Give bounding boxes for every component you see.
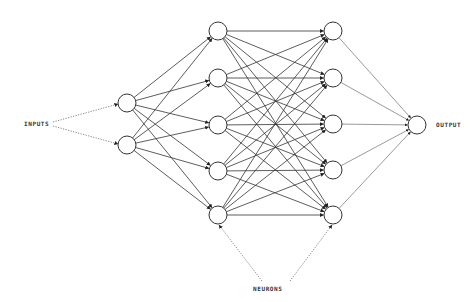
annotation-arrow bbox=[53, 104, 118, 122]
output-label: OUTPUT bbox=[436, 121, 461, 128]
connection-edge bbox=[136, 148, 209, 169]
connection-edge bbox=[342, 124, 408, 125]
hidden-1-neuron-node bbox=[209, 69, 227, 87]
hidden-2-neuron-node bbox=[324, 115, 342, 133]
hidden-2-neuron-node bbox=[324, 22, 342, 40]
neurons-label: NEURONS bbox=[253, 285, 283, 292]
hidden-1-neuron-node bbox=[209, 22, 227, 40]
annotation-arrow bbox=[219, 225, 262, 281]
connection-edge bbox=[134, 84, 210, 140]
annotation-arrow bbox=[53, 126, 118, 144]
inputs-label: INPUTS bbox=[24, 120, 49, 127]
neural-network-diagram: INPUTS NEURONS OUTPUT bbox=[0, 0, 476, 302]
connection-edge bbox=[136, 81, 209, 101]
input-neuron-node bbox=[118, 136, 136, 154]
connection-edge bbox=[339, 38, 411, 118]
connection-edge bbox=[339, 132, 410, 209]
output-neuron-node bbox=[408, 116, 426, 134]
connection-edge bbox=[341, 82, 409, 120]
hidden-1-neuron-node bbox=[209, 162, 227, 180]
connection-edges bbox=[133, 31, 411, 215]
input-neuron-node bbox=[118, 94, 136, 112]
connection-edge bbox=[224, 38, 327, 163]
hidden-2-neuron-node bbox=[324, 161, 342, 179]
connection-edge bbox=[133, 38, 213, 138]
connection-edge bbox=[341, 130, 409, 166]
connection-edge bbox=[136, 127, 209, 143]
hidden-1-neuron-node bbox=[209, 116, 227, 134]
connection-edge bbox=[134, 108, 210, 165]
hidden-2-neuron-node bbox=[324, 69, 342, 87]
hidden-1-neuron-node bbox=[209, 206, 227, 224]
annotation-arrow bbox=[290, 225, 332, 281]
hidden-2-neuron-node bbox=[324, 206, 342, 224]
